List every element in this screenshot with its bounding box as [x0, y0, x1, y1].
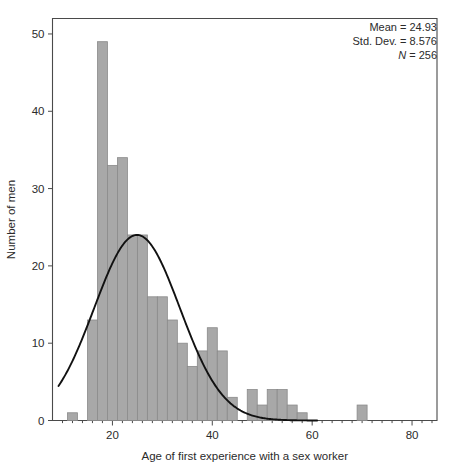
x-axis-ticks	[62, 421, 432, 426]
histogram-bar	[187, 366, 197, 420]
histogram-bar	[67, 413, 77, 421]
x-axis-tick-labels: 20406080	[106, 429, 418, 441]
x-tick-label: 60	[306, 429, 319, 441]
y-axis-tick-labels: 01020304050	[32, 28, 45, 427]
histogram-bar	[287, 405, 297, 420]
histogram-bar	[167, 320, 177, 421]
mean-stat-label: Mean = 24.93	[369, 21, 437, 33]
histogram-bar	[97, 42, 107, 421]
chart-canvas: 01020304050 20406080 Number of men Age o…	[0, 0, 459, 466]
histogram-bar	[217, 351, 227, 421]
x-tick-label: 80	[406, 429, 419, 441]
histogram-bar	[277, 390, 287, 421]
histogram-bar	[147, 297, 157, 421]
statistics-legend: Mean = 24.93 Std. Dev. = 8.576 N = 256	[353, 21, 438, 61]
y-axis-ticks	[48, 34, 53, 421]
x-tick-label: 40	[206, 429, 219, 441]
histogram-bar	[177, 343, 187, 420]
histogram-bar	[297, 413, 307, 421]
histogram-bar	[107, 165, 117, 420]
sample-size-value: = 256	[406, 49, 437, 61]
y-tick-label: 10	[32, 337, 45, 349]
histogram-bars	[67, 42, 367, 421]
histogram-chart: 01020304050 20406080 Number of men Age o…	[0, 0, 459, 466]
histogram-bar	[127, 235, 137, 421]
y-tick-label: 0	[38, 415, 44, 427]
y-tick-label: 50	[32, 28, 45, 40]
sample-size-symbol: N	[398, 49, 406, 61]
sample-size-stat-label: N = 256	[398, 49, 437, 61]
histogram-bar	[357, 405, 367, 420]
histogram-bar	[157, 297, 167, 421]
histogram-bar	[137, 235, 147, 421]
y-axis-title: Number of men	[5, 180, 17, 259]
histogram-bar	[267, 390, 277, 421]
y-tick-label: 40	[32, 105, 45, 117]
histogram-bar	[117, 158, 127, 421]
y-tick-label: 30	[32, 183, 45, 195]
x-tick-label: 20	[106, 429, 119, 441]
histogram-bar	[87, 320, 97, 421]
y-tick-label: 20	[32, 260, 45, 272]
x-axis-title: Age of first experience with a sex worke…	[142, 450, 349, 462]
std-dev-stat-label: Std. Dev. = 8.576	[353, 35, 438, 47]
